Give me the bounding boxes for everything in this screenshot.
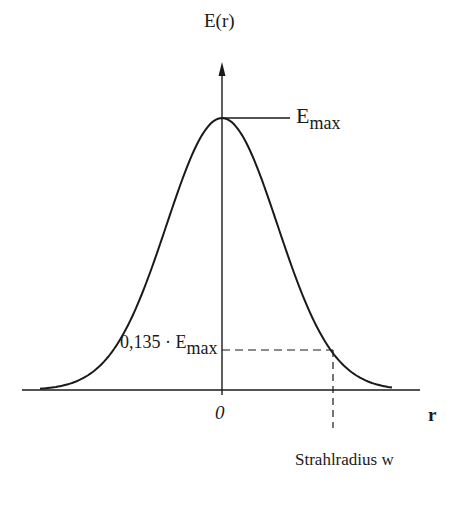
origin-label: 0 xyxy=(215,402,225,424)
threshold-label: 0,135 · Emax xyxy=(120,332,218,359)
beam-radius-label: Strahlradius w xyxy=(295,450,394,470)
peak-label: Emax xyxy=(296,103,340,134)
e-axis-arrow-icon xyxy=(219,62,226,76)
y-axis-label: E(r) xyxy=(204,10,235,32)
x-axis-label: r xyxy=(428,404,436,426)
gaussian-plot xyxy=(0,0,462,505)
